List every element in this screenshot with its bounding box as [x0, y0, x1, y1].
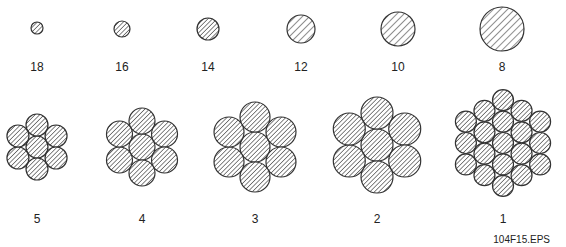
strand — [474, 100, 495, 121]
strand — [152, 147, 178, 173]
strand — [333, 145, 365, 177]
strand — [26, 114, 48, 136]
strand — [129, 108, 155, 134]
strand — [493, 111, 514, 132]
strand — [389, 113, 421, 145]
gauge-label: 4 — [139, 212, 146, 226]
strand — [240, 102, 270, 132]
solid-wire-12 — [287, 15, 315, 43]
strand — [530, 111, 551, 132]
gauge-label: 10 — [391, 60, 404, 74]
strand — [240, 162, 270, 192]
gauge-label: 3 — [252, 212, 259, 226]
strand — [266, 117, 296, 147]
solid-wire-14 — [197, 18, 219, 40]
gauge-label: 2 — [374, 212, 381, 226]
strand — [361, 129, 393, 161]
strand — [129, 160, 155, 186]
gauge-label: 8 — [499, 60, 506, 74]
strand — [361, 161, 393, 193]
strand — [455, 133, 476, 154]
strand — [493, 90, 514, 111]
solid-wire-16 — [114, 21, 130, 37]
strand — [530, 154, 551, 175]
strand — [511, 165, 532, 186]
strand — [493, 133, 514, 154]
strand — [152, 121, 178, 147]
solid-wire-18 — [31, 22, 43, 34]
strand — [7, 125, 29, 147]
strand — [45, 125, 67, 147]
gauge-label: 18 — [30, 60, 43, 74]
strand — [474, 165, 495, 186]
strand — [493, 154, 514, 175]
gauge-label: 14 — [201, 60, 214, 74]
file-label: 104F15.EPS — [493, 234, 550, 245]
gauge-label: 5 — [34, 212, 41, 226]
strand — [455, 154, 476, 175]
solid-wire-10 — [381, 12, 415, 46]
strand — [45, 147, 67, 169]
strand — [266, 147, 296, 177]
strand — [106, 147, 132, 173]
strand — [240, 132, 270, 162]
strand — [26, 136, 48, 158]
strand — [511, 122, 532, 143]
strand — [474, 143, 495, 164]
solid-wire-8 — [480, 7, 524, 51]
strand — [361, 97, 393, 129]
gauge-label: 12 — [294, 60, 307, 74]
solid-wire-group — [31, 7, 524, 51]
strand — [7, 147, 29, 169]
stranded-wire-group — [7, 90, 551, 197]
strand — [474, 122, 495, 143]
strand — [333, 113, 365, 145]
strand — [493, 175, 514, 196]
strand — [106, 121, 132, 147]
strand — [214, 117, 244, 147]
gauge-label: 1 — [500, 212, 507, 226]
strand — [214, 147, 244, 177]
wire-gauge-diagram — [0, 0, 566, 247]
strand — [389, 145, 421, 177]
strand — [26, 158, 48, 180]
strand — [511, 143, 532, 164]
strand — [129, 134, 155, 160]
gauge-label: 16 — [115, 60, 128, 74]
strand — [530, 133, 551, 154]
strand — [511, 100, 532, 121]
strand — [455, 111, 476, 132]
